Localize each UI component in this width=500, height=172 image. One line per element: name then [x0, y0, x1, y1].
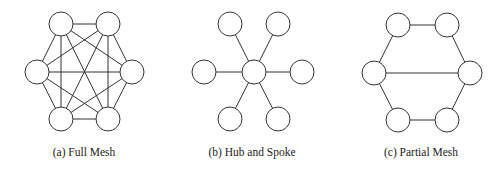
- node-top-left: [386, 13, 410, 37]
- full-mesh-diagram: [25, 12, 144, 131]
- node-top-right: [435, 13, 459, 37]
- node-right: [120, 60, 144, 84]
- hub-and-spoke-diagram: [192, 12, 314, 131]
- node-top-left: [49, 12, 73, 36]
- node-left: [192, 60, 216, 84]
- node-bottom-right: [435, 108, 459, 132]
- node-bottom-left: [386, 108, 410, 132]
- node-top-left: [218, 12, 242, 36]
- node-right: [458, 61, 482, 85]
- partial-mesh-diagram: [362, 13, 482, 132]
- node-bottom-left: [49, 107, 73, 131]
- node-top-right: [96, 12, 120, 36]
- caption-full-mesh: (a) Full Mesh: [53, 146, 116, 158]
- node-left: [362, 61, 386, 85]
- caption-partial-mesh: (c) Partial Mesh: [384, 146, 458, 158]
- node-bottom-right: [266, 107, 290, 131]
- node-right: [290, 60, 314, 84]
- node-top-right: [266, 12, 290, 36]
- node-bottom-left: [218, 107, 242, 131]
- caption-hub-and-spoke: (b) Hub and Spoke: [208, 146, 295, 158]
- node-hub: [242, 60, 266, 84]
- node-left: [25, 60, 49, 84]
- node-bottom-right: [96, 107, 120, 131]
